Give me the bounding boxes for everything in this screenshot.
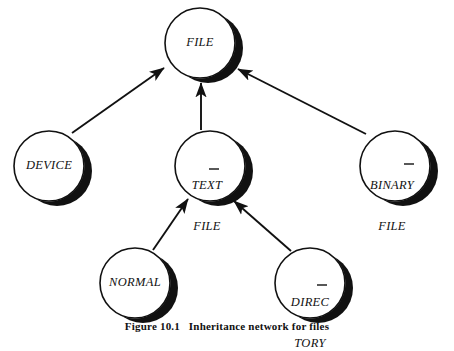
- edge-device-to-file: [72, 68, 164, 133]
- node-bodies-mask: [14, 8, 431, 319]
- figure-caption: Figure 10.1 Inheritance network for file…: [0, 320, 454, 332]
- edge-directory-to-text-file: [234, 201, 291, 251]
- edge-normal-to-text-file: [153, 199, 188, 250]
- edge-binary-file-to-file: [238, 69, 366, 134]
- node-label-directory-line2: TORY: [273, 337, 347, 351]
